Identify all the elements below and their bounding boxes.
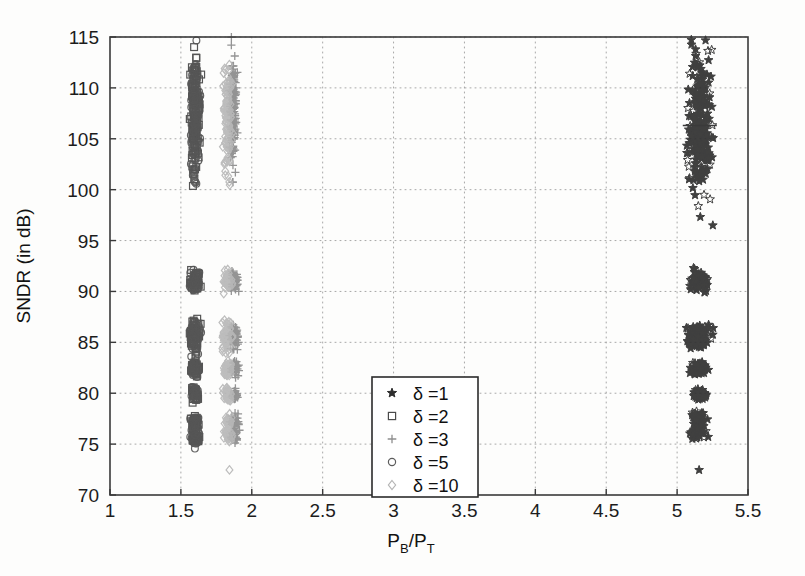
y-tick-label: 85 bbox=[78, 332, 99, 353]
legend-label: δ =5 bbox=[413, 453, 449, 473]
y-tick-label: 80 bbox=[78, 383, 99, 404]
y-axis-title: SNDR (in dB) bbox=[13, 208, 34, 323]
x-tick-label: 3 bbox=[388, 500, 399, 521]
x-tick-label: 5 bbox=[672, 500, 683, 521]
legend-label: δ =1 bbox=[413, 384, 449, 404]
plot-svg: 11.522.533.544.555.570758085909510010511… bbox=[0, 0, 805, 576]
y-tick-label: 105 bbox=[67, 129, 99, 150]
y-tick-label: 90 bbox=[78, 281, 99, 302]
x-tick-label: 1.5 bbox=[168, 500, 194, 521]
x-tick-label: 4 bbox=[530, 500, 541, 521]
legend: δ =1δ =2δ =3δ =5δ =10 bbox=[372, 377, 478, 497]
y-tick-label: 110 bbox=[69, 78, 99, 99]
y-tick-label: 115 bbox=[69, 27, 99, 48]
series-star bbox=[682, 35, 718, 473]
legend-label: δ =3 bbox=[413, 430, 449, 450]
x-tick-label: 2.5 bbox=[309, 500, 335, 521]
x-tick-label: 5.5 bbox=[735, 500, 761, 521]
legend-label: δ =10 bbox=[413, 476, 459, 496]
x-axis-title: PB/PT bbox=[387, 530, 434, 556]
y-tick-label: 95 bbox=[78, 231, 99, 252]
legend-label: δ =2 bbox=[413, 407, 449, 427]
y-tick-label: 75 bbox=[78, 434, 99, 455]
x-tick-label: 4.5 bbox=[593, 500, 619, 521]
x-tick-label: 1 bbox=[105, 500, 116, 521]
x-tick-label: 2 bbox=[246, 500, 257, 521]
figure-scatter-plot: 11.522.533.544.555.570758085909510010511… bbox=[0, 0, 805, 576]
y-tick-label: 100 bbox=[67, 180, 99, 201]
x-tick-label: 3.5 bbox=[451, 500, 477, 521]
y-tick-label: 70 bbox=[78, 485, 99, 506]
